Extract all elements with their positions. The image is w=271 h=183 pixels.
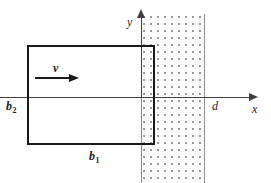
loop-width-label-subscript: 1 xyxy=(95,156,99,165)
field-width-label: d xyxy=(212,100,218,112)
y-axis-label: y xyxy=(127,16,132,28)
field-region-right-boundary xyxy=(204,14,205,183)
physics-diagram: v b2 b1 d x y xyxy=(0,0,271,183)
y-axis-arrowhead-icon xyxy=(137,9,145,18)
velocity-label: v xyxy=(53,62,58,74)
x-axis-arrowhead-icon xyxy=(249,93,258,101)
conducting-loop xyxy=(27,45,155,145)
loop-height-label-subscript: 2 xyxy=(12,106,16,115)
loop-width-label: b1 xyxy=(89,150,99,162)
x-axis-label: x xyxy=(252,103,257,115)
velocity-arrow-head xyxy=(69,74,79,82)
velocity-arrow-shaft xyxy=(35,77,71,79)
velocity-arrow-icon xyxy=(35,77,79,79)
loop-height-label: b2 xyxy=(6,100,16,112)
